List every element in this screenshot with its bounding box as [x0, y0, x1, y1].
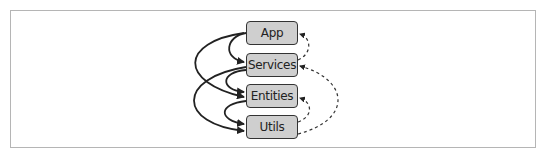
- edge-app-entities: [195, 33, 244, 97]
- node-label: Entities: [251, 89, 294, 103]
- node-label: App: [261, 26, 284, 40]
- node-label: Services: [248, 58, 296, 72]
- node-utils: Utils: [246, 115, 298, 139]
- node-label: Utils: [260, 120, 285, 134]
- edge-services-app: [298, 34, 309, 60]
- edge-utils-services: [298, 66, 338, 134]
- edge-entities-utils: [225, 101, 246, 124]
- node-entities: Entities: [246, 84, 298, 108]
- node-services: Services: [246, 53, 298, 77]
- edge-app-services: [229, 33, 246, 62]
- edge-utils-entities: [298, 98, 310, 122]
- edge-services-entities: [226, 70, 246, 92]
- node-app: App: [246, 21, 298, 45]
